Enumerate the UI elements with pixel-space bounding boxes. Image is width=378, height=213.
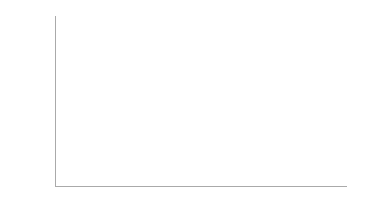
x-axis-line xyxy=(55,186,347,187)
y-axis-line xyxy=(55,16,56,186)
